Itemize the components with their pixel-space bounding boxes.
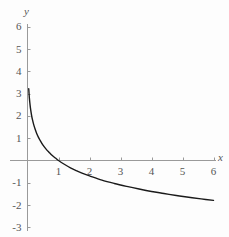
chart-canvas: y x 654321-1-2-3 123456: [0, 0, 229, 237]
y-tick-label: -2: [6, 200, 22, 211]
y-tick-label: 6: [6, 21, 22, 32]
y-tick-label: 4: [6, 66, 22, 77]
x-tick-label: 4: [144, 166, 160, 177]
y-tick-label: 3: [6, 88, 22, 99]
y-tick-label: -3: [6, 222, 22, 233]
x-tick-label: 5: [175, 166, 191, 177]
x-tick-label: 6: [206, 166, 222, 177]
y-tick-label: 2: [6, 110, 22, 121]
x-axis-label: x: [218, 152, 223, 163]
x-tick-label: 2: [82, 166, 98, 177]
chart-plot-svg: [0, 0, 229, 237]
y-tick-label: -1: [6, 177, 22, 188]
y-axis-label: y: [24, 6, 29, 17]
x-tick-label: 1: [51, 166, 67, 177]
y-tick-label: 1: [6, 133, 22, 144]
y-tick-label: 5: [6, 44, 22, 55]
data-curve: [29, 89, 214, 201]
x-tick-label: 3: [113, 166, 129, 177]
